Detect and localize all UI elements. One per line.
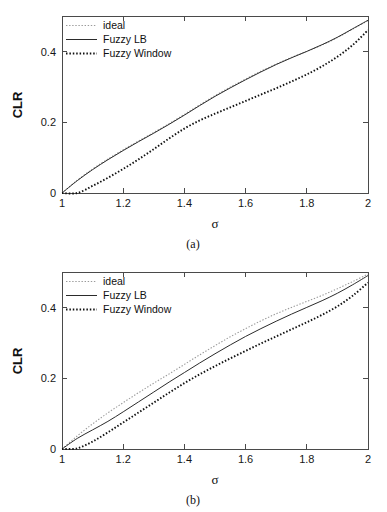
- panel-caption: (b): [186, 493, 200, 507]
- figure-container: 1 1.2 1.4 1.6 1.8 2 0 0.2 0.4 CLR σ (a): [0, 0, 387, 512]
- y-axis-title: CLR: [10, 347, 25, 374]
- plot-a-ytick-labels: 0 0.2 0.4: [41, 46, 56, 200]
- plot-b-legend: ideal Fuzzy LB Fuzzy Window: [66, 275, 172, 315]
- legend-label-fuzzy-window: Fuzzy Window: [103, 303, 172, 315]
- legend-label-fuzzy-window: Fuzzy Window: [103, 47, 172, 59]
- x-axis-title: σ: [211, 472, 218, 487]
- ytick-label: 0.2: [41, 116, 56, 128]
- plot-a-xtick-labels: 1 1.2 1.4 1.6 1.8 2: [59, 197, 371, 209]
- panel-caption: (a): [186, 237, 199, 251]
- xtick-label: 1.2: [116, 453, 131, 465]
- legend-label-ideal: ideal: [103, 19, 125, 31]
- chart-panel-a: 1 1.2 1.4 1.6 1.8 2 0 0.2 0.4 CLR σ (a): [0, 0, 387, 256]
- plot-b-xtick-labels: 1 1.2 1.4 1.6 1.8 2: [59, 453, 371, 465]
- plot-a-svg: 1 1.2 1.4 1.6 1.8 2 0 0.2 0.4 CLR σ (a): [0, 0, 387, 256]
- legend-label-fuzzy-lb: Fuzzy LB: [103, 289, 147, 301]
- legend-label-ideal: ideal: [103, 275, 125, 287]
- ytick-label: 0.4: [41, 302, 56, 314]
- xtick-label: 1.4: [177, 453, 192, 465]
- plot-b-ytick-labels: 0 0.2 0.4: [41, 302, 56, 456]
- xtick-label: 2: [365, 453, 371, 465]
- xtick-label: 1.8: [299, 197, 314, 209]
- xtick-label: 1.8: [299, 453, 314, 465]
- series-line-fuzzy-lb: [62, 276, 368, 449]
- ytick-label: 0.2: [41, 372, 56, 384]
- ytick-label: 0.4: [41, 46, 56, 58]
- x-axis-title: σ: [211, 216, 218, 231]
- xtick-label: 1.4: [177, 197, 192, 209]
- xtick-label: 1.2: [116, 197, 131, 209]
- plot-b-svg: 1 1.2 1.4 1.6 1.8 2 0 0.2 0.4 CLR σ (b): [0, 256, 387, 512]
- plot-a-legend: ideal Fuzzy LB Fuzzy Window: [66, 19, 172, 59]
- ytick-label: 0: [50, 443, 56, 455]
- xtick-label: 1.6: [238, 197, 253, 209]
- xtick-label: 1: [59, 453, 65, 465]
- legend-label-fuzzy-lb: Fuzzy LB: [103, 33, 147, 45]
- ytick-label: 0: [50, 187, 56, 199]
- y-axis-title: CLR: [10, 91, 25, 118]
- xtick-label: 2: [365, 197, 371, 209]
- xtick-label: 1: [59, 197, 65, 209]
- chart-panel-b: 1 1.2 1.4 1.6 1.8 2 0 0.2 0.4 CLR σ (b): [0, 256, 387, 512]
- xtick-label: 1.6: [238, 453, 253, 465]
